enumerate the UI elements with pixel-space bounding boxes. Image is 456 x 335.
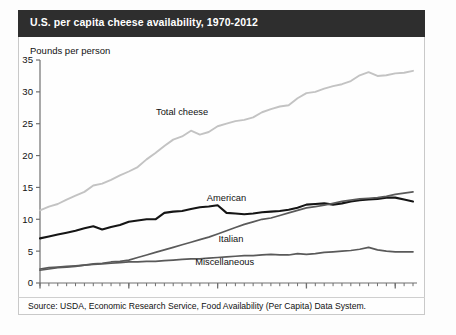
x-tick-label: 1980 [118, 291, 139, 292]
y-tick-label: 25 [22, 118, 33, 129]
y-tick-label: 0 [28, 277, 33, 288]
series-label-total-cheese: Total cheese [156, 107, 208, 117]
x-tick-label: 1990 [207, 291, 228, 292]
page-title: U.S. per capita cheese availability, 197… [30, 16, 258, 28]
source-note: Source: USDA, Economic Research Service,… [18, 297, 425, 316]
chart-title-bar: U.S. per capita cheese availability, 197… [18, 10, 425, 37]
plot-area: 0510152025303519701980199020002010Total … [18, 52, 425, 292]
chart-screenshot: U.S. per capita cheese availability, 197… [0, 0, 456, 335]
series-line-total-cheese [40, 71, 413, 211]
y-tick-label: 35 [22, 54, 33, 65]
line-chart-svg: 0510152025303519701980199020002010Total … [18, 52, 425, 292]
y-tick-label: 15 [22, 182, 33, 193]
y-tick-label: 10 [22, 214, 33, 225]
series-line-american [40, 198, 413, 239]
y-tick-label: 20 [22, 150, 33, 161]
x-tick-label: 2000 [296, 291, 317, 292]
series-label-american: American [207, 193, 246, 203]
y-tick-label: 30 [22, 86, 33, 97]
x-tick-label: 1970 [29, 291, 50, 292]
x-tick-label: 2010 [385, 291, 406, 292]
y-tick-label: 5 [28, 246, 33, 257]
series-label-miscellaneous: Miscellaneous [195, 257, 254, 267]
source-text: Source: USDA, Economic Research Service,… [28, 301, 366, 311]
series-label-italian: Italian [219, 234, 244, 244]
